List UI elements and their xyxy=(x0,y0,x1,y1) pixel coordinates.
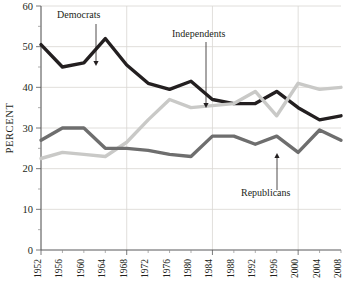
x-axis-tick-label: 1952 xyxy=(33,259,43,278)
annotation-label-independents: Independents xyxy=(172,28,225,39)
x-axis-tick-label: 2000 xyxy=(290,259,300,278)
series-line-republicans xyxy=(41,128,341,156)
x-axis-tick-label: 2004 xyxy=(312,259,322,278)
y-axis-tick-label: 0 xyxy=(28,245,33,256)
y-axis-tick-label: 30 xyxy=(23,123,34,134)
x-axis-tick-label: 1984 xyxy=(204,259,214,278)
annotation-label-democrats: Democrats xyxy=(57,9,100,20)
annotation-arrow-head-republicans xyxy=(274,153,279,158)
x-axis-tick-label: 1988 xyxy=(226,259,236,278)
y-axis-tick-label: 40 xyxy=(23,82,34,93)
y-axis-tick-label: 60 xyxy=(23,1,34,12)
x-axis-tick-label: 1980 xyxy=(183,259,193,278)
y-axis-tick-label: 10 xyxy=(23,204,34,215)
chart-container: 0102030405060195219561960196419681972197… xyxy=(0,0,349,296)
x-axis-tick-label: 1964 xyxy=(97,259,107,278)
x-axis-tick-label: 1968 xyxy=(119,259,129,278)
annotation-label-republicans: Republicans xyxy=(241,187,291,198)
x-axis-tick-label: 1960 xyxy=(76,259,86,278)
series-line-independents xyxy=(41,83,341,158)
x-axis-tick-label: 1976 xyxy=(162,259,172,278)
x-axis-tick-label: 1956 xyxy=(54,259,64,278)
y-axis-tick-label: 20 xyxy=(23,163,34,174)
x-axis-tick-label: 2008 xyxy=(333,259,343,278)
y-axis-tick-label: 50 xyxy=(23,41,34,52)
x-axis-tick-label: 1972 xyxy=(140,259,150,278)
annotation-arrow-head-democrats xyxy=(93,61,98,66)
y-axis-title: PERCENT xyxy=(4,103,15,154)
x-axis-tick-label: 1992 xyxy=(247,259,257,278)
x-axis-tick-label: 1996 xyxy=(269,259,279,278)
party-identification-line-chart: 0102030405060195219561960196419681972197… xyxy=(0,0,349,296)
